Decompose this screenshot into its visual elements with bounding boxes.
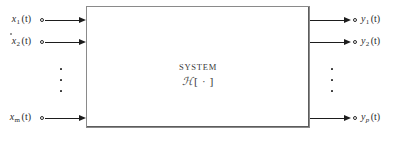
output-terminal-1 bbox=[353, 18, 357, 22]
operator-brackets: [ · ] bbox=[194, 76, 214, 87]
output-label-1-arg: (t) bbox=[369, 13, 380, 24]
input-ellipsis-icon bbox=[58, 68, 64, 92]
ellipsis-dot bbox=[60, 90, 62, 92]
input-terminal-m bbox=[40, 116, 44, 120]
input-label-1: x1(t) bbox=[12, 13, 31, 26]
input-signal-row-2: x2(t) bbox=[0, 42, 86, 54]
output-ellipsis-icon bbox=[329, 68, 335, 92]
input-label-m-arg: (t) bbox=[20, 111, 31, 122]
output-wire-1 bbox=[310, 20, 344, 21]
input-wire-2 bbox=[45, 42, 79, 43]
system-block-diagram: SYSTEM ℋ[ · ] x1(t) x2(t) xm(t) bbox=[0, 0, 395, 144]
script-h-icon: ℋ bbox=[182, 75, 194, 88]
input-label-m: xm(t) bbox=[10, 111, 31, 124]
input-terminal-2 bbox=[40, 40, 44, 44]
output-label-2: y2(t) bbox=[361, 35, 380, 48]
output-label-p-arg: (t) bbox=[369, 111, 380, 122]
output-terminal-p bbox=[353, 116, 357, 120]
input-arrowhead-1 bbox=[79, 17, 86, 23]
system-block-title: SYSTEM bbox=[86, 62, 310, 73]
output-arrowhead-p bbox=[344, 115, 351, 121]
ellipsis-dot bbox=[331, 68, 333, 70]
output-label-p: yp(t) bbox=[361, 111, 380, 124]
output-terminal-2 bbox=[353, 40, 357, 44]
ellipsis-dot bbox=[331, 90, 333, 92]
ellipsis-dot bbox=[60, 68, 62, 70]
input-arrowhead-m bbox=[79, 115, 86, 121]
input-label-2: x2(t) bbox=[12, 35, 31, 48]
input-label-1-arg: (t) bbox=[20, 13, 31, 24]
ellipsis-dot bbox=[60, 79, 62, 81]
output-wire-2 bbox=[310, 42, 344, 43]
output-signal-row-1: y1(t) bbox=[310, 20, 395, 32]
input-signal-row-m: xm(t) bbox=[0, 118, 86, 130]
input-terminal-1 bbox=[40, 18, 44, 22]
system-block-label-group: SYSTEM ℋ[ · ] bbox=[86, 62, 310, 88]
output-arrowhead-2 bbox=[344, 39, 351, 45]
system-operator-label: ℋ[ · ] bbox=[86, 75, 310, 88]
output-signal-row-p: yp(t) bbox=[310, 118, 395, 130]
output-signal-row-2: y2(t) bbox=[310, 42, 395, 54]
output-wire-p bbox=[310, 118, 344, 119]
output-arrowhead-1 bbox=[344, 17, 351, 23]
input-arrowhead-2 bbox=[79, 39, 86, 45]
ellipsis-dot bbox=[331, 79, 333, 81]
input-wire-1 bbox=[45, 20, 79, 21]
input-signal-row-1: x1(t) bbox=[0, 20, 86, 32]
input-wire-m bbox=[45, 118, 79, 119]
output-label-1: y1(t) bbox=[361, 13, 380, 26]
input-label-2-arg: (t) bbox=[20, 35, 31, 46]
output-label-2-arg: (t) bbox=[369, 35, 380, 46]
